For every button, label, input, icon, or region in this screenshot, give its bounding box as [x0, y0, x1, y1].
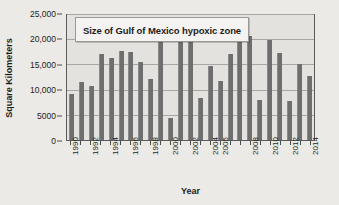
x-tick-label: 1998: [147, 146, 154, 180]
x-tick-label: [77, 146, 84, 180]
y-axis: 0500010,00015,00020,00025,000: [0, 14, 62, 141]
x-tick-label-text: 2014: [311, 137, 320, 155]
bar: [69, 94, 74, 140]
bar: [287, 101, 292, 140]
x-tick-label: [157, 146, 164, 180]
x-tick-mark: [120, 141, 121, 145]
x-tick-mark: [100, 141, 101, 145]
x-tick-label: 1994: [107, 146, 114, 180]
bar: [89, 86, 94, 140]
bar: [128, 52, 133, 140]
y-tick-mark: [57, 115, 62, 116]
x-tick-mark: [140, 141, 141, 145]
y-tick-label: 20,000: [30, 34, 56, 44]
bar: [188, 31, 193, 140]
x-tick-label: 2012: [287, 146, 294, 180]
x-tick-label: 2010: [267, 146, 274, 180]
x-tick-mark: [160, 141, 161, 145]
bar: [178, 37, 183, 140]
bar: [158, 41, 163, 140]
x-tick-label: [237, 146, 244, 180]
x-tick-label: 2005: [217, 146, 224, 180]
y-tick-label: 10,000: [30, 85, 56, 95]
x-axis-labels: 1990199219941996199820002002200420052008…: [66, 146, 315, 180]
bar: [257, 100, 262, 140]
bar: [148, 79, 153, 140]
x-axis-title: Year: [66, 186, 315, 196]
y-tick-mark: [57, 141, 62, 142]
bar: [208, 66, 213, 140]
x-tick-label: 2002: [187, 146, 194, 180]
bar: [228, 54, 233, 140]
x-tick-label: [137, 146, 144, 180]
chart-page: Square Kilometers 0500010,00015,00020,00…: [0, 0, 339, 205]
bar: [99, 54, 104, 140]
bar: [138, 62, 143, 140]
bar: [218, 81, 223, 140]
bar: [267, 40, 272, 140]
y-tick-mark: [57, 39, 62, 40]
bar: [277, 53, 282, 140]
x-tick-mark: [230, 141, 231, 145]
bar: [109, 58, 114, 140]
y-tick-mark: [57, 90, 62, 91]
chart-title: Size of Gulf of Mexico hypoxic zone: [75, 17, 249, 42]
x-tick-label: [257, 146, 264, 180]
x-tick-label: 1996: [127, 146, 134, 180]
x-tick-label: 1990: [67, 146, 74, 180]
bar: [79, 82, 84, 140]
x-tick-mark: [240, 141, 241, 145]
x-tick-label: 2014: [307, 146, 314, 180]
x-tick-mark: [300, 141, 301, 145]
x-tick-label: 2008: [247, 146, 254, 180]
bar: [237, 38, 242, 140]
y-tick-label: 5000: [37, 111, 56, 121]
chart-title-label: Size of Gulf of Mexico hypoxic zone: [83, 25, 241, 36]
x-tick-label: [277, 146, 284, 180]
bar: [307, 76, 312, 140]
bar: [198, 98, 203, 140]
y-tick-mark: [57, 14, 62, 15]
bar: [247, 36, 252, 140]
x-tick-label: 2000: [167, 146, 174, 180]
x-tick-label: [117, 146, 124, 180]
x-tick-mark: [200, 141, 201, 145]
bar: [119, 51, 124, 140]
y-tick-label: 0: [51, 136, 56, 146]
x-tick-label: [227, 146, 234, 180]
x-tick-label: [177, 146, 184, 180]
x-tick-mark: [280, 141, 281, 145]
y-tick-label: 25,000: [30, 9, 56, 19]
x-tick-mark: [260, 141, 261, 145]
y-tick-label: 15,000: [30, 60, 56, 70]
x-tick-label: [297, 146, 304, 180]
y-tick-mark: [57, 64, 62, 65]
x-axis-title-label: Year: [181, 186, 200, 196]
x-tick-mark: [180, 141, 181, 145]
x-tick-label: [97, 146, 104, 180]
x-tick-mark: [80, 141, 81, 145]
x-tick-label: [197, 146, 204, 180]
bar: [297, 64, 302, 140]
x-tick-label: 1992: [87, 146, 94, 180]
x-tick-label: 2004: [207, 146, 214, 180]
